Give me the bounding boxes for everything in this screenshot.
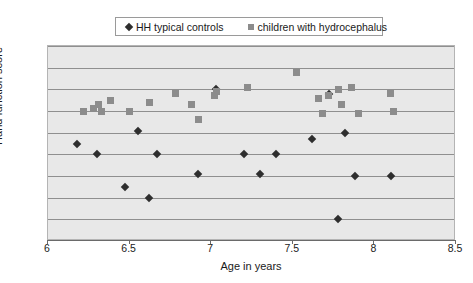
legend-label-hydrocephalus: children with hydrocephalus xyxy=(258,21,388,33)
data-point-square xyxy=(213,88,220,95)
x-tick-mark xyxy=(210,240,211,244)
data-point-square xyxy=(146,99,153,106)
data-point-square xyxy=(338,101,345,108)
x-tick-label: 7.5 xyxy=(284,243,299,254)
x-axis-line xyxy=(47,240,455,241)
data-point-square xyxy=(107,97,114,104)
data-point-diamond xyxy=(134,126,142,134)
x-tick-mark xyxy=(47,240,48,244)
data-point-diamond xyxy=(73,139,81,147)
data-point-diamond xyxy=(145,193,153,201)
data-point-square xyxy=(315,95,322,102)
data-point-diamond xyxy=(308,135,316,143)
data-point-square xyxy=(126,108,133,115)
data-point-diamond xyxy=(386,172,394,180)
data-point-square xyxy=(348,84,355,91)
x-tick-label: 8.5 xyxy=(448,243,463,254)
data-point-square xyxy=(390,108,397,115)
data-point-diamond xyxy=(153,150,161,158)
chart-legend: HH typical controls children with hydroc… xyxy=(115,17,383,36)
y-axis-label: Hand function score xyxy=(0,47,4,145)
data-point-square xyxy=(98,108,105,115)
data-point-diamond xyxy=(93,150,101,158)
data-point-diamond xyxy=(256,170,264,178)
data-point-square xyxy=(325,92,332,99)
data-point-square xyxy=(195,116,202,123)
x-tick-mark xyxy=(129,240,130,244)
data-point-square xyxy=(244,84,251,91)
data-point-square xyxy=(293,69,300,76)
x-tick-label: 7 xyxy=(207,243,213,254)
data-point-square xyxy=(335,86,342,93)
data-point-diamond xyxy=(351,172,359,180)
data-point-square xyxy=(80,108,87,115)
data-point-diamond xyxy=(272,150,280,158)
data-point-diamond xyxy=(334,215,342,223)
x-tick-label: 6 xyxy=(44,243,50,254)
data-point-square xyxy=(355,110,362,117)
x-tick-mark xyxy=(292,240,293,244)
x-tick-mark xyxy=(373,240,374,244)
legend-entry-hydrocephalus: children with hydrocephalus xyxy=(248,18,388,35)
data-point-square xyxy=(387,90,394,97)
data-point-square xyxy=(172,90,179,97)
legend-label-controls: HH typical controls xyxy=(136,21,224,33)
data-points xyxy=(48,46,454,239)
data-point-diamond xyxy=(341,128,349,136)
data-point-square xyxy=(188,101,195,108)
square-marker-icon xyxy=(248,24,254,30)
data-point-diamond xyxy=(194,170,202,178)
data-point-diamond xyxy=(120,183,128,191)
x-tick-label: 6.5 xyxy=(121,243,136,254)
scatter-chart: HH typical controls children with hydroc… xyxy=(0,0,473,283)
x-tick-label: 8 xyxy=(370,243,376,254)
data-point-diamond xyxy=(240,150,248,158)
plot-area xyxy=(47,45,455,240)
x-tick-mark xyxy=(455,240,456,244)
data-point-square xyxy=(319,110,326,117)
x-axis-label: Age in years xyxy=(220,260,281,272)
diamond-marker-icon xyxy=(125,22,133,30)
legend-entry-controls: HH typical controls xyxy=(126,18,224,35)
